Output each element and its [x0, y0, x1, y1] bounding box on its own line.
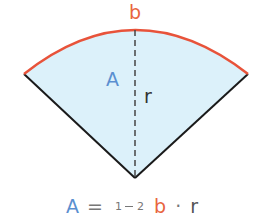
- radius-label: r: [144, 87, 152, 106]
- area-formula: A = 1 2 b · r: [0, 196, 264, 216]
- formula-dot: ·: [175, 197, 181, 216]
- arc-label: b: [129, 3, 141, 22]
- area-label: A: [106, 70, 119, 89]
- fraction-bar: [125, 206, 133, 207]
- formula-area: A: [66, 197, 79, 216]
- fraction-numerator: 1: [115, 201, 122, 212]
- formula-equals: =: [87, 197, 103, 216]
- formula-fraction: 1 2: [115, 201, 144, 213]
- sector-diagram: [0, 0, 264, 223]
- formula-radius: r: [190, 197, 198, 216]
- formula-arc: b: [154, 197, 166, 216]
- fraction-denominator: 2: [137, 201, 144, 212]
